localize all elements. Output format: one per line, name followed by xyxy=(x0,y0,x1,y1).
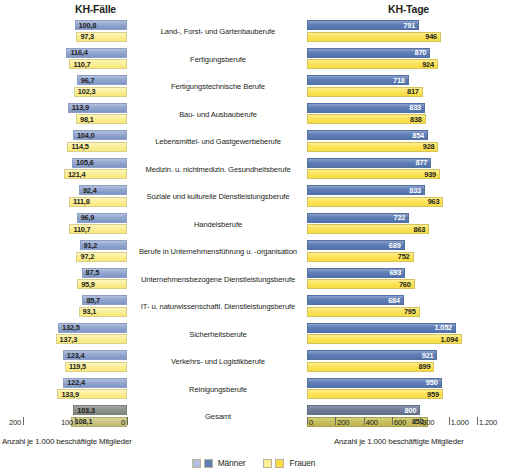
axis-tick-label: 1.000 xyxy=(451,418,469,427)
bar-right-maenner: 870 xyxy=(307,48,430,58)
axis-tick-label: 200 xyxy=(9,418,21,427)
bar-right-frauen: 899 xyxy=(307,362,434,372)
row-left-bars: 87,595,9 xyxy=(0,266,130,294)
bar-right-frauen: 939 xyxy=(307,169,440,179)
bar-value-label: 97,2 xyxy=(77,252,97,261)
chart-container: KH-Fälle KH-Tage 100,897,3Land-, Forst- … xyxy=(0,0,507,476)
bar-left-maenner: 113,9 xyxy=(68,103,127,113)
axis-caption-left: Anzahl je 1.000 beschäftigte Mitglieder xyxy=(2,437,132,446)
category-label: Medizin. u. nichtmedizin. Gesundheitsber… xyxy=(132,156,304,184)
chart-row: 116,4110,7Fertigungsberufe870924 xyxy=(0,46,507,74)
bar-value-label: 877 xyxy=(413,158,431,167)
bar-value-label: 760 xyxy=(396,280,414,289)
bar-right-frauen: 752 xyxy=(307,252,414,262)
bar-right-frauen: 946 xyxy=(307,32,441,42)
legend-swatch-light xyxy=(192,459,201,468)
bar-right-maenner: 921 xyxy=(307,350,437,360)
bar-left-maenner: 96,9 xyxy=(77,213,127,223)
bar-value-label: 1.052 xyxy=(432,323,456,332)
bar-value-label: 92,4 xyxy=(80,186,100,195)
bar-value-label: 689 xyxy=(386,241,404,250)
row-right-bars: 870924 xyxy=(306,46,507,74)
bar-value-label: 833 xyxy=(406,186,424,195)
row-left-bars: 100,897,3 xyxy=(0,18,130,46)
bar-left-maenner: 87,5 xyxy=(82,268,128,278)
bar-value-label: 93,1 xyxy=(80,307,100,316)
bar-left-maenner: 116,4 xyxy=(66,48,127,58)
bar-left-frauen: 111,8 xyxy=(69,197,127,207)
bar-left-maenner: 92,4 xyxy=(79,185,127,195)
category-label: Verkehrs- und Logistikberufe xyxy=(132,348,304,376)
row-left-bars: 96,7102,3 xyxy=(0,73,130,101)
category-label: Gesamt xyxy=(132,403,304,431)
legend-label: Männer xyxy=(218,458,246,468)
bar-right-frauen: 1.094 xyxy=(307,334,462,344)
axis-tick xyxy=(75,417,76,425)
category-label: Berufe in Unternehmensführung u. -organi… xyxy=(132,238,304,266)
bar-value-label: 959 xyxy=(424,390,442,399)
bar-value-label: 97,3 xyxy=(77,32,97,41)
axis-tick-label: 1.200 xyxy=(479,418,497,427)
axis-right: 02004006008001.0001.200 xyxy=(306,417,507,433)
category-label: Sicherheitsberufe xyxy=(132,321,304,349)
bar-left-frauen: 119,5 xyxy=(65,362,127,372)
row-left-bars: 116,4110,7 xyxy=(0,46,130,74)
axis-tick-label: 800 xyxy=(422,418,434,427)
row-right-bars: 833838 xyxy=(306,101,507,129)
panel-title-right: KH-Tage xyxy=(388,3,429,15)
row-left-bars: 123,4119,5 xyxy=(0,348,130,376)
bar-left-maenner: 132,5 xyxy=(58,323,127,333)
chart-row: 91,297,2Berufe in Unternehmensführung u.… xyxy=(0,238,507,266)
legend-item: Frauen xyxy=(263,458,315,468)
row-right-bars: 684795 xyxy=(306,293,507,321)
bar-value-label: 110,7 xyxy=(70,225,93,234)
bar-value-label: 111,8 xyxy=(70,197,93,206)
bar-value-label: 752 xyxy=(395,252,413,261)
bar-value-label: 102,3 xyxy=(75,87,99,96)
axis-tick xyxy=(127,417,128,425)
chart-row: 132,5137,3Sicherheitsberufe1.0521.094 xyxy=(0,321,507,349)
chart-row: 85,793,1IT- u. naturwissenschaftl. Diens… xyxy=(0,293,507,321)
bar-value-label: 121,4 xyxy=(65,170,89,179)
bar-left-frauen: 95,9 xyxy=(77,279,127,289)
row-left-bars: 85,793,1 xyxy=(0,293,130,321)
bar-right-frauen: 924 xyxy=(307,59,438,69)
chart-rows: 100,897,3Land-, Forst- und Gartenbauberu… xyxy=(0,18,507,431)
bar-value-label: 924 xyxy=(419,60,437,69)
bar-left-maenner: 103,3 xyxy=(73,405,127,415)
bar-value-label: 98,1 xyxy=(77,115,97,124)
axis-tick-label: 600 xyxy=(394,418,406,427)
category-label: Fertigungsberufe xyxy=(132,46,304,74)
bar-value-label: 963 xyxy=(425,197,443,206)
bar-left-frauen: 93,1 xyxy=(79,307,127,317)
bar-right-maenner: 684 xyxy=(307,295,404,305)
legend-item: Männer xyxy=(192,458,246,468)
row-left-bars: 91,297,2 xyxy=(0,238,130,266)
bar-right-maenner: 689 xyxy=(307,240,405,250)
bar-value-label: 133,9 xyxy=(58,390,82,399)
bar-value-label: 114,5 xyxy=(68,142,91,151)
axis-tick xyxy=(449,417,450,425)
bar-left-frauen: 137,3 xyxy=(56,334,127,344)
bar-value-label: 718 xyxy=(390,76,408,85)
bar-value-label: 722 xyxy=(391,213,409,222)
legend-swatch-dark xyxy=(275,459,284,468)
bar-right-frauen: 795 xyxy=(307,307,420,317)
category-label: IT- u. naturwissenschaftl. Dienstleistun… xyxy=(132,293,304,321)
bar-value-label: 899 xyxy=(416,362,434,371)
bar-value-label: 684 xyxy=(385,296,403,305)
bar-value-label: 693 xyxy=(386,268,404,277)
bar-left-frauen: 98,1 xyxy=(76,114,127,124)
row-left-bars: 132,5137,3 xyxy=(0,321,130,349)
bar-value-label: 946 xyxy=(422,32,440,41)
row-right-bars: 950959 xyxy=(306,376,507,404)
panel-title-left: KH-Fälle xyxy=(75,3,116,15)
axis-tick xyxy=(392,417,393,425)
axis-tick-label: 400 xyxy=(366,418,378,427)
row-right-bars: 722863 xyxy=(306,211,507,239)
category-label: Lebensmittel- und Gastgewerbeberufe xyxy=(132,128,304,156)
bar-value-label: 119,5 xyxy=(66,362,89,371)
axis-tick-label: 0 xyxy=(121,418,125,427)
row-right-bars: 718817 xyxy=(306,73,507,101)
row-left-bars: 113,998,1 xyxy=(0,101,130,129)
